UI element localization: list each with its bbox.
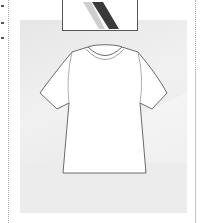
adjacent-list-edge <box>0 0 8 223</box>
column-divider-right <box>195 0 196 70</box>
column-divider-left <box>8 0 9 223</box>
stripe-pattern-icon <box>63 0 137 30</box>
list-bullet-icon <box>1 37 4 39</box>
previous-product-image[interactable] <box>62 0 138 31</box>
scrollbar-track[interactable] <box>195 70 196 223</box>
list-bullet-icon <box>1 22 4 24</box>
tshirt-icon <box>30 40 180 180</box>
list-bullet-icon <box>1 5 4 7</box>
